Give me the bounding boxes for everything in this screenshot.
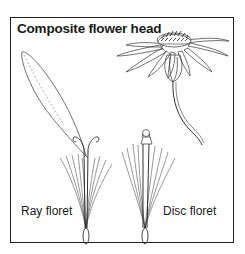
ray-floret-label: Ray floret: [21, 204, 72, 218]
flower-head-illustration: [117, 31, 229, 145]
disc-floret-label: Disc floret: [163, 204, 216, 218]
disc-floret-illustration: [122, 130, 175, 245]
